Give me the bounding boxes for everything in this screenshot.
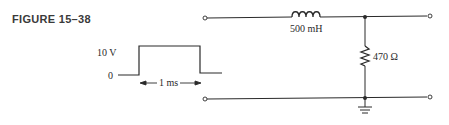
bottom-wire: [207, 97, 427, 99]
top-wire-right: [320, 16, 427, 17]
output-terminal-top: [428, 14, 432, 18]
junction-bottom: [363, 96, 367, 100]
inductor-icon: [292, 12, 320, 17]
circuit-diagram: 10 V 0 1 ms 500 mH 4: [0, 0, 449, 125]
resistor-value-label: 470 Ω: [373, 51, 398, 62]
pulse-low-label: 0: [108, 70, 113, 81]
input-terminal-top: [203, 16, 207, 20]
inductor-value-label: 500 mH: [290, 23, 323, 34]
pulse-width-label: 1 ms: [159, 77, 178, 88]
junction-top: [363, 15, 367, 19]
pulse-high-label: 10 V: [97, 47, 117, 58]
ground-icon: [358, 107, 372, 113]
pulse-waveform: [118, 46, 222, 75]
output-terminal-bottom: [428, 95, 432, 99]
top-wire-left: [207, 17, 292, 18]
resistor-icon: [361, 46, 369, 66]
input-terminal-bottom: [203, 97, 207, 101]
